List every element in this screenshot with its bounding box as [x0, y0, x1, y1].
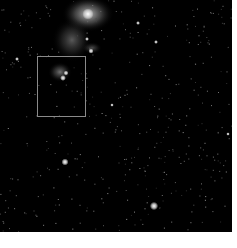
- star-field-image: [0, 0, 232, 232]
- star: [226, 132, 230, 136]
- star: [61, 158, 68, 165]
- star: [110, 103, 114, 107]
- star: [15, 57, 19, 61]
- star: [88, 48, 93, 53]
- image-viewer[interactable]: [0, 0, 232, 232]
- star: [82, 8, 93, 19]
- star: [85, 37, 89, 41]
- star: [150, 202, 158, 210]
- selection-rectangle[interactable]: [37, 56, 86, 117]
- star: [154, 40, 158, 44]
- star: [136, 21, 140, 25]
